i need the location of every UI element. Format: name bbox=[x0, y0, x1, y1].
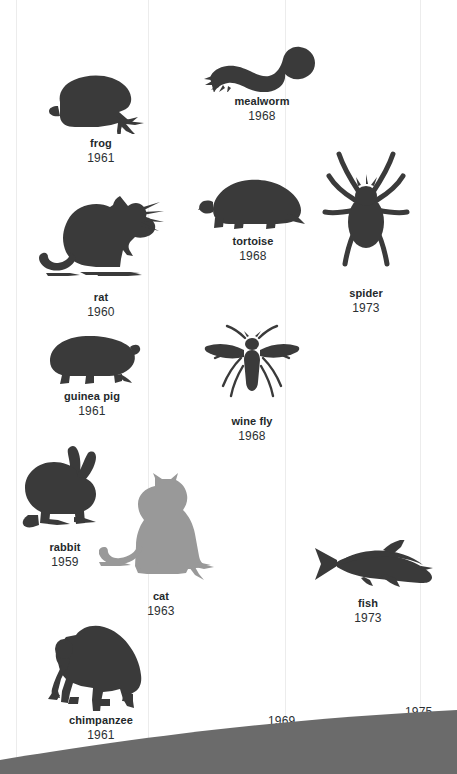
animal-label: frog bbox=[46, 136, 156, 150]
guinea-pig-silhouette-icon bbox=[42, 333, 142, 387]
animal-label: chimpanzee bbox=[46, 713, 156, 727]
animal-label: rat bbox=[36, 290, 166, 304]
animal-item-tortoise: tortoise 1968 bbox=[197, 170, 309, 264]
caption-guinea-pig: guinea pig 1961 bbox=[42, 389, 142, 419]
animal-year: 1973 bbox=[321, 301, 411, 316]
caption-frog: frog 1961 bbox=[46, 136, 156, 166]
cat-silhouette-icon bbox=[99, 472, 223, 587]
animal-item-mealworm: mealworm 1968 bbox=[198, 42, 326, 124]
animal-item-cat: cat 1963 bbox=[99, 472, 223, 619]
wine-fly-silhouette-icon bbox=[197, 322, 307, 412]
animal-item-spider: spider 1973 bbox=[321, 144, 411, 316]
caption-mealworm: mealworm 1968 bbox=[198, 94, 326, 124]
rat-silhouette-icon bbox=[36, 192, 166, 288]
caption-tortoise: tortoise 1968 bbox=[197, 234, 309, 264]
animal-year: 1968 bbox=[197, 429, 307, 444]
frog-silhouette-icon bbox=[46, 72, 156, 134]
animal-year: 1968 bbox=[197, 249, 309, 264]
animal-year: 1963 bbox=[99, 604, 223, 619]
gridline-4 bbox=[420, 0, 421, 774]
timeline-illustration: frog 1961 mealworm 1968 bbox=[0, 0, 457, 774]
gridline-1 bbox=[16, 0, 17, 774]
animal-item-guinea-pig: guinea pig 1961 bbox=[42, 333, 142, 419]
animal-label: guinea pig bbox=[42, 389, 142, 403]
mealworm-silhouette-icon bbox=[198, 42, 326, 92]
animal-label: mealworm bbox=[198, 94, 326, 108]
animal-year: 1973 bbox=[301, 611, 435, 626]
animal-year: 1961 bbox=[46, 151, 156, 166]
fish-silhouette-icon bbox=[301, 540, 435, 594]
axis-year-1975: 1975 bbox=[405, 705, 433, 719]
axis-year-1969: 1969 bbox=[268, 714, 296, 728]
animal-item-fish: fish 1973 bbox=[301, 540, 435, 626]
tortoise-silhouette-icon bbox=[197, 170, 309, 232]
caption-fish: fish 1973 bbox=[301, 596, 435, 626]
animal-label: cat bbox=[99, 589, 223, 603]
animal-item-chimpanzee: chimpanzee 1961 bbox=[46, 623, 156, 743]
animal-label: wine fly bbox=[197, 414, 307, 428]
animal-item-frog: frog 1961 bbox=[46, 72, 156, 166]
chimpanzee-silhouette-icon bbox=[46, 623, 156, 711]
animal-label: tortoise bbox=[197, 234, 309, 248]
animal-item-rat: rat 1960 bbox=[36, 192, 166, 320]
caption-cat: cat 1963 bbox=[99, 589, 223, 619]
animal-label: fish bbox=[301, 596, 435, 610]
animal-year: 1960 bbox=[36, 305, 166, 320]
animal-year: 1961 bbox=[42, 404, 142, 419]
animal-year: 1968 bbox=[198, 109, 326, 124]
spider-silhouette-icon bbox=[321, 144, 411, 284]
caption-rat: rat 1960 bbox=[36, 290, 166, 320]
caption-wine-fly: wine fly 1968 bbox=[197, 414, 307, 444]
caption-spider: spider 1973 bbox=[321, 286, 411, 316]
animal-label: spider bbox=[321, 286, 411, 300]
axis-year-1963: 1963 bbox=[132, 738, 160, 752]
animal-item-wine-fly: wine fly 1968 bbox=[197, 322, 307, 444]
